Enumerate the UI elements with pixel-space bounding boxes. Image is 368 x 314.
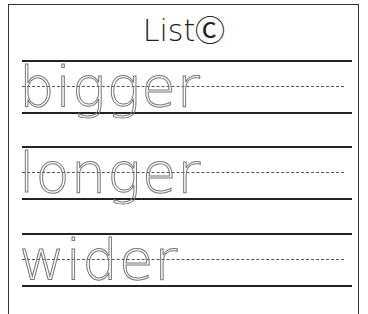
tracing-row: wider [22, 233, 352, 293]
tracing-row: bigger [22, 60, 352, 120]
tracing-word: wider [19, 222, 178, 298]
tracing-word: bigger [19, 49, 201, 125]
tracing-row: longer [22, 146, 352, 206]
tracing-word: longer [19, 135, 201, 211]
worksheet-title: ListⒸ [0, 6, 368, 50]
